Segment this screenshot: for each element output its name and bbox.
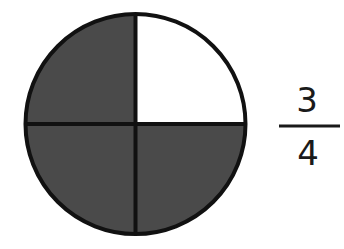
fraction-label: 3 4 <box>279 80 340 173</box>
fraction-circle <box>26 14 246 234</box>
fraction-diagram: 3 4 <box>0 0 344 249</box>
fraction-denominator: 4 <box>297 133 319 173</box>
fraction-numerator: 3 <box>296 80 318 120</box>
